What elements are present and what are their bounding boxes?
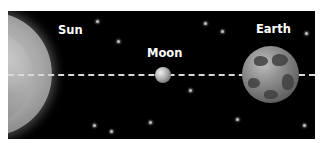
star: [204, 22, 207, 25]
star: [303, 124, 306, 127]
space-panel: Sun Moon Earth: [8, 11, 315, 139]
sun-label: Sun: [58, 25, 83, 37]
star: [117, 40, 120, 43]
star: [110, 130, 113, 133]
earth-label: Earth: [256, 24, 291, 36]
moon-label: Moon: [147, 48, 182, 60]
earth-landmass: [254, 56, 268, 66]
earth-landmass: [248, 78, 260, 88]
earth-body: [242, 46, 299, 103]
earth-landmass: [282, 74, 294, 90]
moon-body: [155, 67, 171, 83]
star: [305, 32, 308, 35]
star: [93, 124, 96, 127]
earth-landmass: [272, 54, 288, 66]
earth-landmass: [264, 90, 278, 99]
star: [236, 118, 239, 121]
star: [96, 20, 99, 23]
star: [221, 30, 224, 33]
star: [149, 121, 152, 124]
star: [189, 89, 192, 92]
